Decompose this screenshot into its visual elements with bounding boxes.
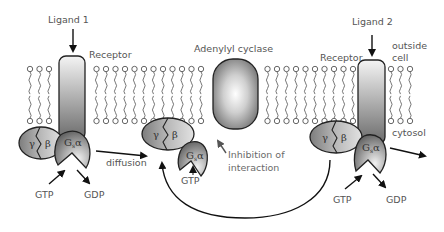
- inhibition-label-line2: interaction: [228, 162, 279, 173]
- gtp-left-arrow: [49, 171, 64, 184]
- gtp-middle-label: GTP: [181, 175, 200, 186]
- gamma-label: γ: [322, 132, 328, 143]
- inhibition-label-line1: Inhibition of: [228, 149, 285, 160]
- gamma-label: γ: [29, 138, 35, 149]
- gpcr-diagram: γ β Gsα γ β Gsα γ β Gsα: [0, 0, 444, 232]
- receptor-right-label: Receptor: [320, 52, 363, 63]
- ligand2-label: Ligand 2: [352, 16, 393, 27]
- g-alpha-left: Gsα: [55, 131, 90, 168]
- receptor-left: [59, 56, 85, 140]
- receptor-right: [358, 60, 385, 144]
- gtp-right-arrow: [345, 176, 361, 189]
- gdp-right-arrow: [373, 174, 385, 187]
- diffusion-arrow: [96, 151, 146, 156]
- beta-label: β: [172, 129, 178, 140]
- gdp-left-label: GDP: [84, 189, 105, 200]
- gamma-label: γ: [153, 129, 159, 140]
- receptor-left-label: Receptor: [89, 49, 132, 60]
- gdp-right-label: GDP: [386, 194, 407, 205]
- gtp-right-label: GTP: [333, 194, 352, 205]
- ligand1-label: Ligand 1: [48, 14, 89, 25]
- cytosol-label: cytosol: [392, 127, 426, 138]
- beta-label: β: [341, 132, 347, 143]
- cytosol-arrow: [390, 148, 425, 156]
- g-beta-gamma-right: γ β: [310, 121, 362, 153]
- adenylyl-cyclase: [213, 59, 258, 129]
- g-alpha-right: Gsα: [354, 135, 386, 173]
- adenylyl-cyclase-label: Adenylyl cyclase: [194, 43, 273, 54]
- outside-cell-label-line1: outside: [392, 40, 427, 51]
- outside-cell-label-line2: cell: [392, 52, 408, 63]
- gtp-left-label: GTP: [35, 189, 54, 200]
- gdp-left-arrow: [77, 170, 89, 183]
- beta-label: β: [45, 138, 51, 149]
- diffusion-label: diffusion: [106, 157, 147, 168]
- inhibition-arrow: [218, 141, 226, 153]
